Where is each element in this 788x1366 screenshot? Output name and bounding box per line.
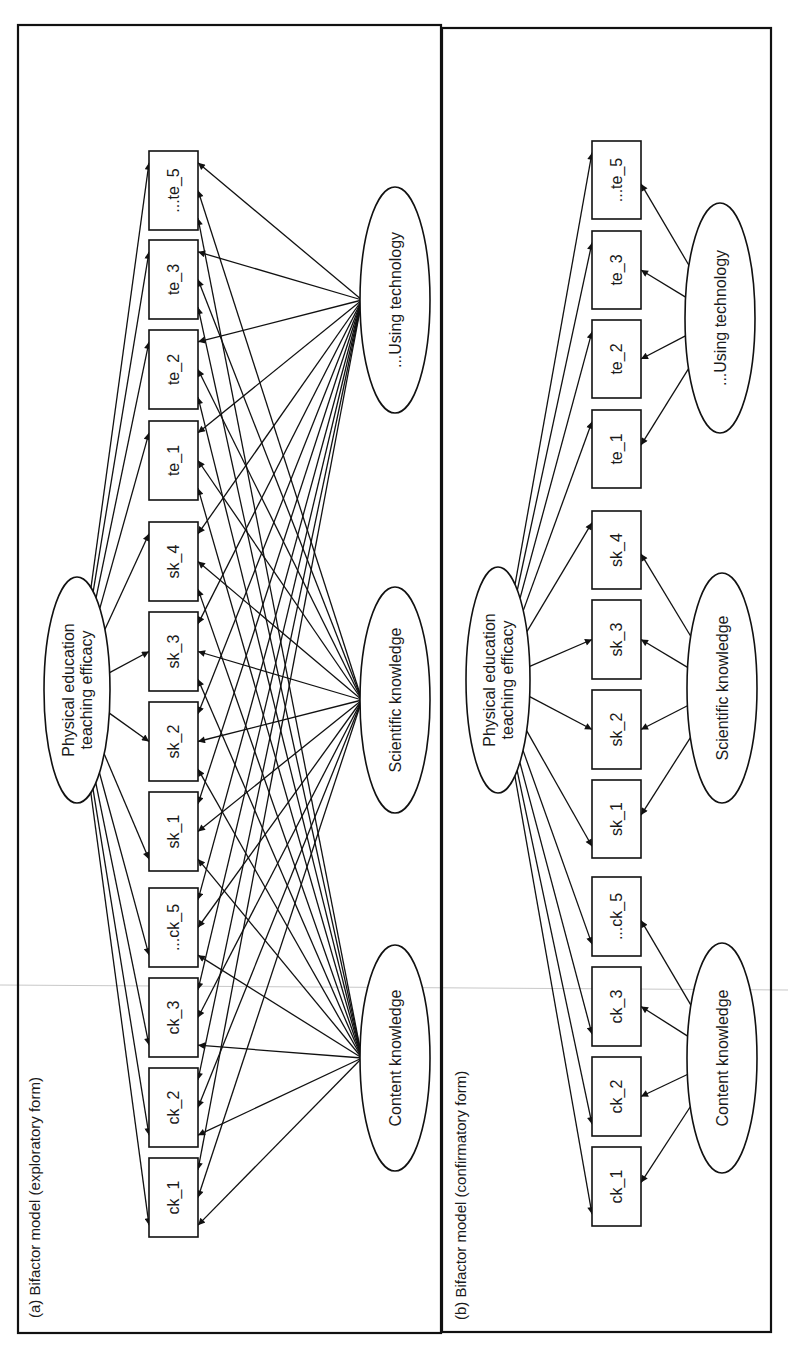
item-node-ck-3: ck_3 bbox=[149, 978, 198, 1057]
item-label: ck_1 bbox=[165, 1181, 183, 1215]
specific-loading-arrow bbox=[641, 336, 685, 359]
item-label: sk_1 bbox=[608, 802, 626, 836]
item-node-sk-1: sk_1 bbox=[592, 780, 641, 858]
item-node-te-2: te_2 bbox=[149, 330, 198, 409]
general-loading-arrow bbox=[517, 243, 592, 590]
item-label: sk_4 bbox=[608, 533, 626, 567]
specific-factor-content: Content knowledge bbox=[687, 943, 757, 1173]
specific-factor-sci: Scientific knowledge bbox=[360, 587, 430, 813]
specific-loading-arrow bbox=[198, 700, 362, 1108]
item-node-sk-1: sk_1 bbox=[149, 792, 198, 871]
item-node-ck-5: ...ck_5 bbox=[592, 877, 641, 956]
specific-loading-arrow bbox=[198, 300, 362, 900]
general-loading-arrow bbox=[530, 640, 592, 667]
item-label: sk_2 bbox=[608, 713, 626, 747]
general-loading-arrow bbox=[110, 652, 149, 673]
item-label: te_1 bbox=[608, 433, 626, 464]
general-factor-label: Physical education bbox=[481, 613, 498, 746]
specific-loading-arrow bbox=[198, 1058, 362, 1135]
item-node-sk-4: sk_4 bbox=[592, 511, 641, 589]
specific-loading-arrow bbox=[641, 640, 688, 668]
item-label: te_3 bbox=[608, 254, 626, 285]
specific-loading-arrow bbox=[198, 562, 362, 701]
specific-factor-label: Scientific knowledge bbox=[387, 627, 404, 772]
item-node-te-1: te_1 bbox=[149, 421, 198, 500]
general-loading-arrow bbox=[91, 793, 149, 1226]
item-label: ...ck_5 bbox=[608, 893, 626, 940]
general-factor-label: teaching efficacy bbox=[78, 631, 95, 750]
general-loading-arrow bbox=[96, 783, 149, 1045]
item-label: ...ck_5 bbox=[165, 904, 183, 951]
item-label: te_3 bbox=[165, 264, 183, 295]
panel-caption: (b) Bifactor model (confirmatory form) bbox=[452, 1071, 469, 1320]
item-label: ck_3 bbox=[608, 990, 626, 1024]
item-node-sk-4: sk_4 bbox=[149, 522, 198, 601]
specific-factor-label: Content knowledge bbox=[714, 989, 731, 1126]
item-label: sk_3 bbox=[608, 623, 626, 657]
general-factor-node: Physical educationteaching efficacy bbox=[44, 577, 110, 803]
specific-loading-arrow bbox=[198, 1058, 362, 1225]
item-node-sk-2: sk_2 bbox=[149, 702, 198, 781]
specific-factor-label: ...Using technology bbox=[712, 250, 729, 386]
specific-loading-arrow bbox=[198, 191, 362, 701]
item-node-ck-5: ...ck_5 bbox=[149, 888, 198, 967]
item-node-ck-1: ck_1 bbox=[149, 1158, 198, 1237]
specific-loading-arrow bbox=[198, 1045, 362, 1058]
item-label: ck_2 bbox=[608, 1080, 626, 1114]
specific-loading-arrow bbox=[198, 163, 362, 300]
general-loading-arrow bbox=[96, 342, 149, 598]
general-loading-arrow bbox=[515, 776, 592, 1214]
specific-loading-arrow bbox=[641, 1107, 690, 1183]
item-node-te-3: te_3 bbox=[592, 231, 641, 309]
bifactor-figure: (a) Bifactor model (exploratory form)...… bbox=[0, 0, 788, 1366]
general-loading-arrow bbox=[104, 754, 149, 859]
general-loading-arrow bbox=[530, 697, 592, 730]
item-label: ck_1 bbox=[608, 1170, 626, 1204]
specific-loading-arrow bbox=[641, 738, 690, 816]
item-label: sk_1 bbox=[165, 815, 183, 849]
general-loading-arrow bbox=[520, 762, 592, 1034]
item-node-te-3: te_3 bbox=[149, 240, 198, 319]
specific-loading-arrow bbox=[641, 270, 686, 297]
specific-factor-tech: ...Using technology bbox=[360, 187, 430, 413]
item-node-ck-3: ck_3 bbox=[592, 967, 641, 1046]
item-node-ck-1: ck_1 bbox=[592, 1147, 641, 1226]
general-factor-node: Physical educationteaching efficacy bbox=[466, 567, 530, 793]
item-node-te-5: ...te_5 bbox=[149, 151, 198, 230]
item-node-sk-2: sk_2 bbox=[592, 690, 641, 769]
specific-loading-arrow bbox=[641, 554, 691, 636]
panel-caption: (a) Bifactor model (exploratory form) bbox=[26, 1077, 43, 1318]
specific-loading-arrow bbox=[641, 184, 689, 265]
item-label: ...te_5 bbox=[608, 158, 626, 203]
item-label: te_2 bbox=[165, 354, 183, 385]
item-label: sk_3 bbox=[165, 635, 183, 669]
item-node-sk-3: sk_3 bbox=[592, 600, 641, 679]
specific-loading-arrow bbox=[198, 300, 362, 990]
item-node-te-1: te_1 bbox=[592, 410, 641, 488]
loading-edges bbox=[515, 153, 691, 1214]
item-label: sk_2 bbox=[165, 725, 183, 759]
general-loading-arrow bbox=[93, 252, 149, 592]
item-node-te-2: te_2 bbox=[592, 320, 641, 398]
item-node-te-5: ...te_5 bbox=[592, 141, 641, 219]
item-node-sk-3: sk_3 bbox=[149, 612, 198, 691]
specific-factor-label: ...Using technology bbox=[387, 232, 404, 368]
general-loading-arrow bbox=[109, 713, 149, 741]
general-factor-label: Physical education bbox=[60, 623, 77, 756]
specific-loading-arrow bbox=[198, 769, 362, 1058]
item-label: ck_2 bbox=[165, 1091, 183, 1125]
item-label: te_1 bbox=[165, 445, 183, 476]
specific-factor-label: Content knowledge bbox=[387, 989, 404, 1126]
item-label: sk_4 bbox=[165, 545, 183, 579]
specific-loading-arrow bbox=[198, 300, 362, 433]
item-label: te_2 bbox=[608, 343, 626, 374]
general-loading-arrow bbox=[517, 771, 592, 1125]
loading-edges bbox=[91, 163, 362, 1225]
specific-loading-arrow bbox=[198, 252, 362, 300]
specific-factor-label: Scientific knowledge bbox=[714, 615, 731, 760]
panel-exploratory: (a) Bifactor model (exploratory form)...… bbox=[18, 25, 441, 1333]
specific-factor-content: Content knowledge bbox=[360, 945, 430, 1171]
item-node-ck-2: ck_2 bbox=[149, 1068, 198, 1147]
general-loading-arrow bbox=[91, 163, 149, 588]
general-loading-arrow bbox=[520, 332, 592, 598]
